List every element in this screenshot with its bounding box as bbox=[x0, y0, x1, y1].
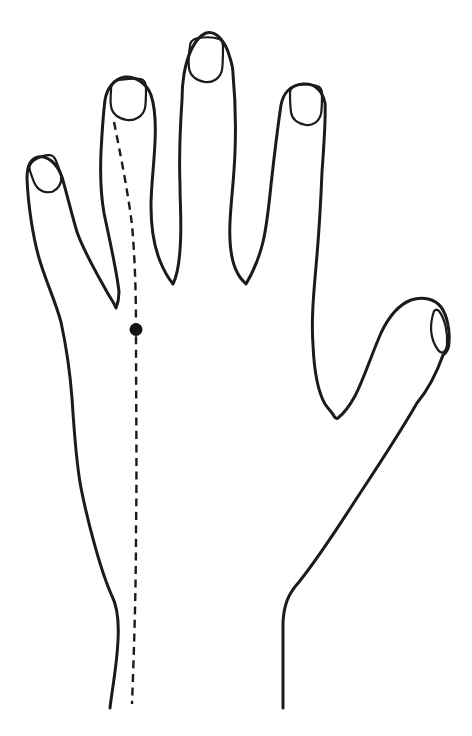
index-nail bbox=[290, 84, 322, 125]
acupoint-dot bbox=[130, 323, 143, 336]
hand-diagram-canvas bbox=[0, 0, 472, 736]
ring-nail bbox=[111, 79, 146, 121]
hand-outline bbox=[27, 33, 449, 708]
hand-acupoint-figure bbox=[0, 0, 472, 736]
